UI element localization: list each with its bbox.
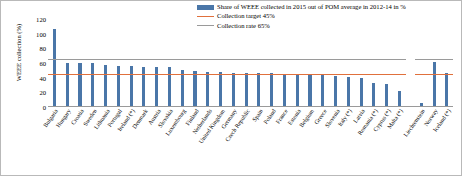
y-axis-tick: 20 (22, 89, 46, 96)
bar-slot (112, 19, 125, 107)
bar (91, 63, 94, 107)
bar (321, 75, 324, 107)
reference-line-collection-target (48, 74, 406, 75)
bar-slot (137, 19, 150, 107)
y-axis-tick: 120 (22, 16, 46, 23)
plot-area (48, 19, 453, 107)
bar (296, 74, 299, 107)
bar-slot (316, 19, 329, 107)
y-axis-tick: 100 (22, 30, 46, 37)
bar-slot (304, 19, 317, 107)
bar (245, 73, 248, 107)
bar-slot (48, 19, 61, 107)
bar-slot (355, 19, 368, 107)
bar-slot (150, 19, 163, 107)
bar-slot (189, 19, 202, 107)
bar (232, 73, 235, 107)
x-label-slot: Iceland (*) (440, 108, 453, 176)
bar (433, 62, 436, 107)
bar-slot (61, 19, 74, 107)
bar (360, 78, 363, 107)
bar (385, 84, 388, 107)
bar (142, 67, 145, 107)
bar (104, 65, 107, 107)
bar (445, 73, 448, 107)
bar (206, 72, 209, 107)
x-label-slot: Malta (*) (393, 108, 406, 176)
bar (117, 66, 120, 107)
reference-line-collection-rate (415, 59, 453, 60)
bar-slot (342, 19, 355, 107)
reference-line-collection-rate (48, 59, 406, 60)
bar-series (48, 19, 453, 107)
legend-line-target-icon (197, 16, 214, 17)
y-axis: 020406080100120 (20, 19, 46, 107)
bar (181, 70, 184, 107)
bar-slot (329, 19, 342, 107)
bar-slot (440, 19, 453, 107)
bar-slot (163, 19, 176, 107)
bar-slot (214, 19, 227, 107)
bar (308, 75, 311, 107)
bar-slot (393, 19, 406, 107)
bar (283, 74, 286, 107)
bar-slot (99, 19, 112, 107)
bar (347, 77, 350, 107)
bar-slot (86, 19, 99, 107)
bar (334, 76, 337, 107)
x-axis-line (48, 106, 453, 107)
bar (257, 73, 260, 107)
bar (270, 73, 273, 107)
y-axis-tick: 0 (22, 104, 46, 111)
legend-swatch-bar-icon (197, 5, 214, 10)
legend-entry-share: Share of WEEE collected in 2015 out of P… (197, 3, 437, 11)
weee-collection-chart: Share of WEEE collected in 2015 out of P… (0, 0, 462, 176)
bar-slot (125, 19, 138, 107)
bar-slot (176, 19, 189, 107)
bar-slot (428, 19, 441, 107)
bar (66, 63, 69, 107)
bar-slot (201, 19, 214, 107)
bar-slot (227, 19, 240, 107)
y-axis-tick: 80 (22, 45, 46, 52)
bar-slot (240, 19, 253, 107)
x-axis-tick-label: Poland (262, 108, 277, 126)
bar (219, 72, 222, 107)
legend-label-share: Share of WEEE collected in 2015 out of P… (217, 3, 437, 11)
bar-slot (253, 19, 266, 107)
bar-slot (278, 19, 291, 107)
bar (372, 83, 375, 107)
bar-slot (380, 19, 393, 107)
bar (193, 71, 196, 107)
bar-slot (291, 19, 304, 107)
x-axis-labels: BulgariaHungaryCroatiaSwedenLithuaniaPor… (48, 108, 453, 176)
bar-slot (265, 19, 278, 107)
reference-line-collection-target (415, 74, 453, 75)
bar-slot (368, 19, 381, 107)
bar-slot (415, 19, 428, 107)
bar (78, 63, 81, 107)
bar (53, 29, 56, 107)
bar-slot (74, 19, 87, 107)
bar (398, 91, 401, 107)
y-axis-tick: 40 (22, 74, 46, 81)
bar (130, 66, 133, 107)
y-axis-tick: 60 (22, 60, 46, 67)
